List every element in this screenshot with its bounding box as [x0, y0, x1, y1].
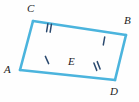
tick-mark-ED-double [94, 62, 100, 71]
segment-AD [20, 70, 115, 80]
vertex-label-B: B [124, 15, 131, 26]
triangle-edges [20, 21, 126, 80]
geometry-figure: A C E B D [0, 0, 139, 102]
segment-BD [115, 35, 126, 80]
tick-mark-EB-single [103, 37, 104, 45]
segment-AC [20, 21, 33, 70]
tick-mark-CE-double [47, 24, 52, 32]
vertex-label-A: A [4, 64, 11, 75]
vertex-label-D: D [110, 86, 118, 97]
geometry-canvas [0, 0, 139, 102]
tick-mark-AE-single [45, 56, 48, 63]
vertex-label-C: C [27, 3, 34, 14]
vertex-label-E: E [68, 56, 75, 67]
